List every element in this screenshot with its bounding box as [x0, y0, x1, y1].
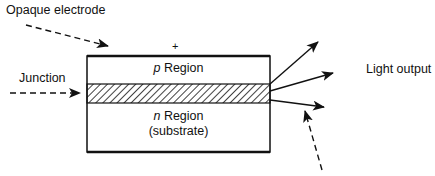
junction-label: Junction [19, 71, 66, 85]
electrode-pointer-arrow [26, 25, 108, 46]
light-ray-arrow-1 [270, 42, 318, 84]
positive-terminal-label: + [172, 40, 178, 52]
light-ray-arrow-3 [270, 100, 324, 107]
electrode-label: Opaque electrode [6, 3, 105, 17]
light-output-label: Light output [366, 62, 431, 76]
p-region-text: Region [160, 61, 203, 75]
substrate-label: (substrate) [87, 124, 270, 139]
p-region-label: p Region [87, 61, 270, 75]
n-region-label: n Region (substrate) [87, 109, 270, 139]
n-region-text: Region [160, 109, 203, 123]
junction-layer [87, 84, 270, 103]
edge-pointer-arrow [305, 111, 322, 170]
led-diagram [0, 0, 435, 176]
